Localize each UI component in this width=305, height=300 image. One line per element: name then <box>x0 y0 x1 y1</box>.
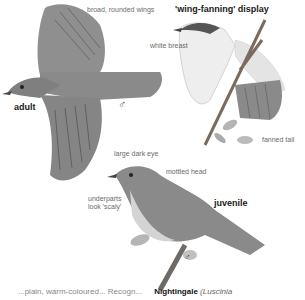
label-underparts: underparts <box>88 195 121 203</box>
label-fanned-tail: fanned tail <box>262 136 294 144</box>
wing-fanning-bird <box>173 20 285 145</box>
juvenile-bird <box>107 166 265 290</box>
label-mottled-head: mottled head <box>166 168 206 176</box>
label-adult: adult <box>14 102 36 112</box>
label-broad-wings: broad, rounded wings <box>87 6 154 14</box>
label-look-scaly: look 'scaly' <box>88 203 121 211</box>
label-juvenile: juvenile <box>214 198 248 208</box>
latin-name: (Luscinia <box>200 287 232 296</box>
label-wing-fanning: 'wing-fanning' display <box>175 4 269 14</box>
footer-caption: ...plain, warm-coloured... Recogn... Nig… <box>18 287 232 296</box>
species-name: Nightingale <box>154 287 198 296</box>
label-large-dark-eye: large dark eye <box>114 150 158 158</box>
male-symbol-icon: ♂ <box>118 98 126 110</box>
footer-partial-text: ...plain, warm-coloured... Recogn... <box>18 287 142 296</box>
label-white-breast: white breast <box>150 42 188 50</box>
male-symbol-icon-2: ♂ <box>184 252 191 262</box>
